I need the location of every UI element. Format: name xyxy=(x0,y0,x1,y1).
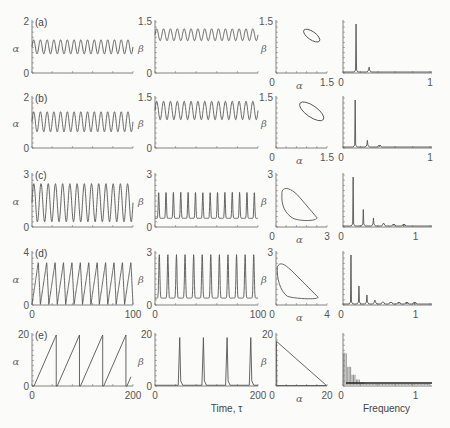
svg-text:3: 3 xyxy=(23,169,29,180)
svg-text:0: 0 xyxy=(269,152,275,163)
svg-text:1.5: 1.5 xyxy=(138,16,152,27)
svg-text:0: 0 xyxy=(269,309,275,320)
svg-text:20: 20 xyxy=(321,390,333,401)
svg-text:2: 2 xyxy=(23,92,29,103)
svg-text:100: 100 xyxy=(250,309,267,320)
spectrum-line xyxy=(343,255,432,305)
svg-text:α: α xyxy=(296,80,303,91)
series-line xyxy=(32,184,133,222)
panel-a-alpha-time: 02α(a) xyxy=(13,16,133,79)
svg-text:0: 0 xyxy=(152,309,158,320)
panel-label: (a) xyxy=(35,17,47,28)
svg-text:3: 3 xyxy=(146,169,152,180)
panel-e-beta-time: 020β0200Time, τ xyxy=(137,329,267,414)
svg-text:1: 1 xyxy=(427,77,433,88)
svg-text:0: 0 xyxy=(23,68,29,79)
svg-text:3: 3 xyxy=(324,231,330,242)
y-axis-label: β xyxy=(137,118,144,129)
svg-text:β: β xyxy=(260,43,267,54)
svg-text:0: 0 xyxy=(338,77,344,88)
svg-text:β: β xyxy=(260,118,267,129)
panel-c-phase: 303βα xyxy=(260,169,330,245)
svg-text:α: α xyxy=(296,393,303,404)
svg-text:0: 0 xyxy=(152,390,158,401)
svg-text:4: 4 xyxy=(324,309,330,320)
svg-text:3: 3 xyxy=(267,169,273,180)
series-line xyxy=(155,29,258,41)
spectrum-line xyxy=(343,177,432,227)
figure-canvas: 02α(a)01.5β1.501.5βα0102α(b)01.5β1.501.5… xyxy=(0,0,450,428)
svg-text:0: 0 xyxy=(338,231,344,242)
y-axis-label: β xyxy=(137,356,144,367)
panel-d-phase: 304βα xyxy=(260,247,330,323)
panel-label: (b) xyxy=(35,93,47,104)
svg-text:1.5: 1.5 xyxy=(320,77,334,88)
svg-text:0: 0 xyxy=(146,68,152,79)
panel-d-beta-time: 03β0100 xyxy=(137,247,267,320)
svg-text:1: 1 xyxy=(413,231,419,242)
series-line xyxy=(155,192,258,218)
svg-text:β: β xyxy=(260,356,267,367)
series-line xyxy=(32,263,133,305)
svg-text:100: 100 xyxy=(125,309,142,320)
svg-text:α: α xyxy=(296,312,303,323)
panel-e-alpha-time: 020α(e)0200 xyxy=(13,329,142,401)
x-axis-label: Time, τ xyxy=(211,403,242,414)
svg-text:0: 0 xyxy=(23,143,29,154)
svg-text:0: 0 xyxy=(269,231,275,242)
panel-a-phase: 1.501.5βα xyxy=(259,16,334,91)
svg-text:β: β xyxy=(260,274,267,285)
svg-text:1: 1 xyxy=(413,390,419,401)
svg-text:0: 0 xyxy=(269,390,275,401)
panel-d-alpha-time: 04α(d)0100 xyxy=(13,247,142,320)
series-line xyxy=(155,101,258,119)
svg-text:1.5: 1.5 xyxy=(259,92,273,103)
panel-c-spectrum: 01 xyxy=(338,173,432,242)
svg-text:1.5: 1.5 xyxy=(138,92,152,103)
spectrum-line xyxy=(343,24,432,72)
y-axis-label: β xyxy=(137,196,144,207)
svg-text:3: 3 xyxy=(267,247,273,258)
panel-label: (c) xyxy=(35,170,47,181)
svg-text:1: 1 xyxy=(413,309,419,320)
svg-text:2: 2 xyxy=(23,16,29,27)
panel-b-alpha-time: 02α(b) xyxy=(13,92,133,154)
svg-text:0: 0 xyxy=(338,152,344,163)
svg-text:α: α xyxy=(296,155,303,166)
svg-text:0: 0 xyxy=(29,390,35,401)
y-axis-label: β xyxy=(137,274,144,285)
series-line xyxy=(32,40,133,54)
svg-text:4: 4 xyxy=(23,247,29,258)
svg-text:200: 200 xyxy=(125,390,142,401)
y-axis-label: α xyxy=(13,196,20,207)
y-axis-label: α xyxy=(13,356,20,367)
y-axis-label: α xyxy=(13,43,20,54)
series-line xyxy=(155,255,258,298)
x-axis-label: Frequency xyxy=(363,403,410,414)
svg-text:0: 0 xyxy=(29,309,35,320)
y-axis-label: α xyxy=(13,118,20,129)
series-line xyxy=(32,335,131,386)
series-line xyxy=(155,338,258,386)
panel-label: (e) xyxy=(35,330,47,341)
svg-text:200: 200 xyxy=(250,390,267,401)
panel-e-phase: 20020βα xyxy=(260,329,333,404)
series-line xyxy=(32,112,133,132)
svg-text:0: 0 xyxy=(146,143,152,154)
svg-text:1: 1 xyxy=(427,152,433,163)
svg-text:0: 0 xyxy=(338,390,344,401)
svg-text:0: 0 xyxy=(269,77,275,88)
panel-c-alpha-time: 03α(c) xyxy=(13,169,133,233)
svg-text:β: β xyxy=(260,196,267,207)
svg-text:1.5: 1.5 xyxy=(320,152,334,163)
panel-d-spectrum: 01 xyxy=(338,251,432,320)
svg-text:20: 20 xyxy=(18,329,30,340)
svg-text:α: α xyxy=(296,234,303,245)
svg-text:20: 20 xyxy=(262,329,274,340)
y-axis-label: α xyxy=(13,274,20,285)
panel-b-beta-time: 01.5β xyxy=(137,92,258,154)
svg-text:20: 20 xyxy=(141,329,153,340)
svg-text:1.5: 1.5 xyxy=(259,16,273,27)
svg-text:0: 0 xyxy=(146,222,152,233)
svg-text:0: 0 xyxy=(23,222,29,233)
